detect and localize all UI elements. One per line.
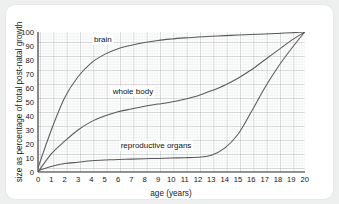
y-tick: 80 [26,56,34,65]
curve-label-whole-body: whole body [112,87,153,96]
x-tick: 1 [49,175,53,184]
curve-label-brain: brain [94,35,112,44]
growth-chart-container: 100 90 80 70 60 50 40 30 20 10 0 0 1 2 3… [0,0,339,204]
curve-label-reproductive-organs: reproductive organs [121,141,192,150]
x-tick: 6 [116,175,120,184]
x-tick: 10 [167,175,175,184]
x-tick: 20 [300,175,308,184]
x-tick: 3 [76,175,80,184]
x-tick-labels: 0 1 2 3 4 5 6 7 8 9 10 11 12 13 14 15 16… [36,175,309,184]
x-tick: 17 [260,175,268,184]
x-tick: 9 [156,175,160,184]
x-tick: 15 [234,175,242,184]
y-tick: 60 [26,84,34,93]
x-tick: 18 [274,175,282,184]
y-axis-title: size as percentage of total post-natal g… [15,21,24,182]
x-tick: 16 [247,175,255,184]
y-tick: 20 [26,140,34,149]
x-axis-title: age (years) [150,189,192,198]
x-tick: 11 [181,175,189,184]
x-tick: 7 [129,175,133,184]
growth-chart: 100 90 80 70 60 50 40 30 20 10 0 0 1 2 3… [0,0,339,204]
y-tick: 10 [26,154,34,163]
x-tick: 14 [220,175,228,184]
x-tick: 2 [63,175,67,184]
x-tick: 19 [287,175,295,184]
x-tick: 5 [103,175,107,184]
y-tick: 30 [26,126,34,135]
y-tick: 50 [26,98,34,107]
x-tick: 13 [207,175,215,184]
x-tick: 8 [143,175,147,184]
y-tick: 90 [26,42,34,51]
x-tick: 4 [89,175,93,184]
y-tick: 0 [30,168,34,177]
x-tick: 12 [194,175,202,184]
y-tick: 40 [26,112,34,121]
y-tick: 70 [26,70,34,79]
x-tick: 0 [36,175,40,184]
